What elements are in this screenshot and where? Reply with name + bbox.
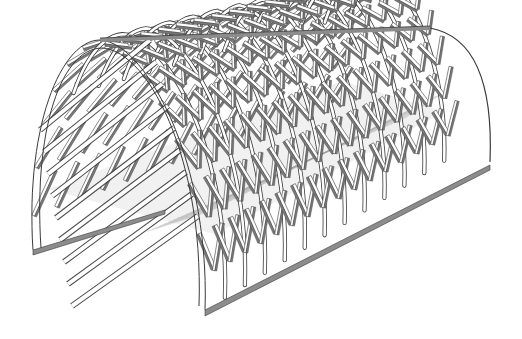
lattice-vault-drawing	[0, 0, 522, 339]
vault-rendering	[0, 0, 522, 339]
